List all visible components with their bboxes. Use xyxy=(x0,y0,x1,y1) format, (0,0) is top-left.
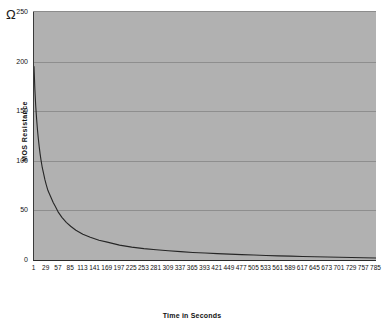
x-tick-label: 421 xyxy=(211,262,222,273)
y-tick-label: 50 xyxy=(20,206,28,213)
x-tick-label: 57 xyxy=(54,262,61,273)
x-tick-label: 113 xyxy=(77,262,87,273)
x-tick-label: 701 xyxy=(333,262,344,273)
x-tick-label: 169 xyxy=(101,262,112,273)
x-tick-label: 673 xyxy=(321,262,332,273)
x-axis-title: Time in Seconds xyxy=(0,312,384,319)
x-tick-label: 729 xyxy=(346,262,357,273)
x-tick-label: 561 xyxy=(272,262,283,273)
y-tick-label: 250 xyxy=(16,8,28,15)
x-tick-label: 757 xyxy=(358,262,369,273)
x-tick-label: 225 xyxy=(126,262,137,273)
x-tick-label: 1 xyxy=(32,262,36,273)
x-tick-label: 309 xyxy=(162,262,173,273)
resistance-decay-chart: Ω MOS Resistance 250200150100500 1295785… xyxy=(0,0,384,332)
y-tick-label: 0 xyxy=(24,256,28,263)
x-tick-label: 29 xyxy=(42,262,49,273)
x-tick-label: 393 xyxy=(199,262,210,273)
x-tick-label: 253 xyxy=(138,262,149,273)
x-tick-label: 197 xyxy=(114,262,125,273)
x-tick-label: 617 xyxy=(297,262,308,273)
data-curve-group xyxy=(34,12,376,260)
x-tick-label: 785 xyxy=(370,262,381,273)
x-tick-label: 505 xyxy=(248,262,259,273)
x-tick-label: 533 xyxy=(260,262,271,273)
x-tick-label: 365 xyxy=(187,262,198,273)
plot-area xyxy=(33,12,376,261)
x-tick-label: 141 xyxy=(89,262,100,273)
x-tick-label: 337 xyxy=(175,262,186,273)
y-tick-label: 150 xyxy=(16,107,28,114)
x-tick-label: 449 xyxy=(223,262,234,273)
y-tick-label: 100 xyxy=(16,157,28,164)
x-axis-tick-labels: 1295785113141169197225253281309337365393… xyxy=(33,262,377,274)
x-tick-label: 281 xyxy=(150,262,161,273)
x-tick-label: 85 xyxy=(67,262,74,273)
x-tick-label: 477 xyxy=(236,262,247,273)
y-tick-label: 200 xyxy=(16,58,28,65)
series-line-mos-resistance xyxy=(34,67,376,258)
x-tick-label: 589 xyxy=(285,262,296,273)
y-axis-tick-labels: 250200150100500 xyxy=(0,0,31,332)
x-tick-label: 645 xyxy=(309,262,320,273)
